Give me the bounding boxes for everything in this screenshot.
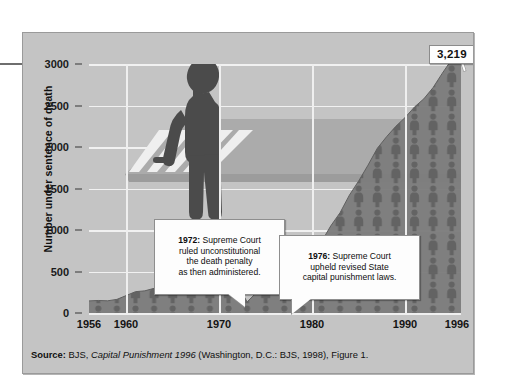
y-tick-label-1000: 1000 xyxy=(23,224,69,236)
y-tick-label-2000: 2000 xyxy=(23,141,69,153)
chart-panel: Number under sentence of death 3000 2500… xyxy=(22,32,474,374)
source-label: Source: xyxy=(31,349,66,360)
y-tick-dash-3000 xyxy=(75,63,82,65)
source-publication: Capital Punishment 1996 xyxy=(91,349,196,360)
annotation-1972-tail xyxy=(227,293,245,307)
source-note: Source: BJS, Capital Punishment 1996 (Wa… xyxy=(31,349,368,360)
x-tick-label-1956: 1956 xyxy=(77,318,101,330)
y-tick-label-2500: 2500 xyxy=(23,100,69,112)
y-tick-dash-1000 xyxy=(75,229,82,231)
y-tick-label-0: 0 xyxy=(23,307,69,319)
y-tick-dash-0 xyxy=(75,312,82,314)
x-tick-label-1990: 1990 xyxy=(393,318,417,330)
y-tick-label-1500: 1500 xyxy=(23,183,69,195)
y-tick-dash-2500 xyxy=(75,105,82,107)
annotation-1976-tail xyxy=(292,298,312,314)
source-rest: (Washington, D.C.: BJS, 1998), Figure 1. xyxy=(196,349,369,360)
y-tick-dash-1500 xyxy=(75,188,82,190)
annotation-callout-1976: 1976: Supreme Court upheld revised State… xyxy=(279,235,420,300)
y-tick-label-3000: 3000 xyxy=(23,58,69,70)
x-tick-label-1980: 1980 xyxy=(300,318,324,330)
source-agency: BJS, xyxy=(66,349,91,360)
annotation-1976-year: 1976: xyxy=(308,251,330,261)
y-tick-label-500: 500 xyxy=(23,266,69,278)
x-tick-label-1996: 1996 xyxy=(445,318,469,330)
annotation-1972-year: 1972: xyxy=(178,235,200,245)
annotation-callout-1972: 1972: Supreme Court ruled unconstitution… xyxy=(154,219,285,295)
x-tick-label-1970: 1970 xyxy=(207,318,231,330)
gridline-0 xyxy=(89,313,461,315)
y-tick-dash-2000 xyxy=(75,146,82,148)
peak-value-label: 3,219 xyxy=(429,45,474,64)
x-tick-label-1960: 1960 xyxy=(114,318,138,330)
left-edge-rule xyxy=(0,63,24,65)
y-tick-dash-500 xyxy=(75,271,82,273)
vline-1960 xyxy=(126,64,127,313)
figure-chart: Number under sentence of death 3000 2500… xyxy=(0,0,512,389)
